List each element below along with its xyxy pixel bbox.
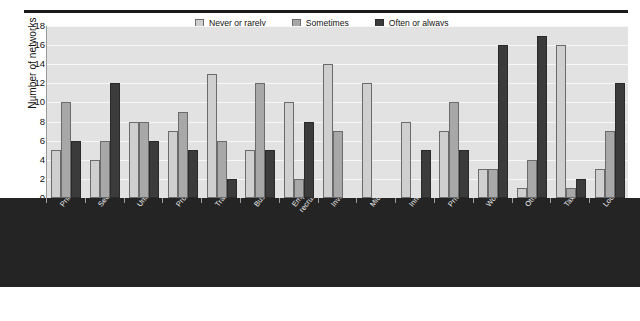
x-axis-tick-label: Local / regional government <box>601 198 628 209</box>
bar-1 <box>100 141 110 198</box>
bar-1 <box>488 169 498 198</box>
bar-1 <box>217 141 227 198</box>
bar-1 <box>294 179 304 198</box>
bar-1 <box>333 131 343 198</box>
x-axis-tick <box>124 198 125 203</box>
top-rule <box>24 10 628 13</box>
bar-group <box>551 26 590 198</box>
x-axis-tick <box>162 198 163 203</box>
bar-1 <box>566 188 576 198</box>
bar-group <box>280 26 319 198</box>
x-axis-tick-label: Investment promotion agencies <box>329 198 401 209</box>
chart-figure: Number of networks Never or rarely Somet… <box>0 0 640 321</box>
bar-1 <box>527 160 537 198</box>
bar-2 <box>421 150 431 198</box>
bar-0 <box>401 122 411 198</box>
bar-0 <box>207 74 217 198</box>
x-axis-tick <box>85 198 86 203</box>
x-label-band-left <box>0 198 46 287</box>
x-axis-tick-label: Tax office <box>562 198 589 209</box>
bar-group <box>163 26 202 198</box>
bar-0 <box>439 131 449 198</box>
bar-1 <box>139 122 149 198</box>
y-axis-tick-label: 8 <box>5 116 45 127</box>
bar-0 <box>90 160 100 198</box>
bar-0 <box>556 45 566 198</box>
x-axis-tick-label: Primary schools <box>58 198 98 209</box>
bar-group <box>241 26 280 198</box>
y-axis-tick-label: 2 <box>5 173 45 184</box>
bar-2 <box>576 179 586 198</box>
bar-group <box>474 26 513 198</box>
y-axis-tick-label: 14 <box>5 58 45 69</box>
x-axis-tick <box>279 198 280 203</box>
bar-2 <box>227 179 237 198</box>
bar-group <box>513 26 552 198</box>
x-axis-category-label: Tax office <box>562 198 589 209</box>
bar-0 <box>245 150 255 198</box>
x-axis-label-band: Primary schoolsSecondary schoolsUniversi… <box>46 198 628 287</box>
x-axis-category-label: Private co. <box>446 198 475 209</box>
y-axis-tick-label: 4 <box>5 154 45 165</box>
plot-area: 181614121086420 <box>46 26 628 198</box>
x-axis-tick <box>318 198 319 203</box>
bar-group <box>435 26 474 198</box>
bar-0 <box>168 131 178 198</box>
bar-0 <box>323 64 333 198</box>
x-label-band-right <box>628 198 640 287</box>
x-axis-tick <box>395 198 396 203</box>
x-axis-tick <box>240 198 241 203</box>
bar-0 <box>284 102 294 198</box>
y-axis-tick-label: 10 <box>5 96 45 107</box>
bar-group <box>47 26 86 198</box>
bar-group <box>357 26 396 198</box>
x-axis-tick <box>550 198 551 203</box>
x-axis-tick <box>434 198 435 203</box>
x-axis-tick <box>356 198 357 203</box>
bar-group <box>202 26 241 198</box>
bar-2 <box>71 141 81 198</box>
y-axis-tick-label: 12 <box>5 77 45 88</box>
plot-area-wrapper: 181614121086420 Primary schoolsSecondary… <box>46 26 628 287</box>
bar-groups <box>47 26 629 198</box>
bar-group <box>396 26 435 198</box>
x-axis-category-label: Local / regional government <box>601 198 628 209</box>
bar-2 <box>459 150 469 198</box>
x-axis-category-label: Primary schools <box>58 198 98 209</box>
bar-0 <box>51 150 61 198</box>
bar-2 <box>149 141 159 198</box>
x-axis-tick <box>589 198 590 203</box>
bar-0 <box>595 169 605 198</box>
bar-1 <box>449 102 459 198</box>
bar-0 <box>517 188 527 198</box>
x-axis-tick <box>473 198 474 203</box>
bar-2 <box>537 36 547 198</box>
bar-0 <box>129 122 139 198</box>
y-axis-tick-label: 6 <box>5 135 45 146</box>
y-axis-tick-label: 16 <box>5 39 45 50</box>
bar-2 <box>615 83 625 198</box>
y-axis-tick-label: 18 <box>5 20 45 31</box>
x-axis-category-label: Other social org. <box>523 198 565 209</box>
bar-1 <box>61 102 71 198</box>
bar-2 <box>498 45 508 198</box>
bar-1 <box>178 112 188 198</box>
bar-group <box>590 26 629 198</box>
bar-2 <box>304 122 314 198</box>
x-axis-tick <box>201 198 202 203</box>
bar-group <box>319 26 358 198</box>
bar-2 <box>265 150 275 198</box>
bar-1 <box>255 83 265 198</box>
bar-1 <box>605 131 615 198</box>
x-axis-tick <box>46 198 47 203</box>
x-axis-tick-label: Private co. <box>446 198 475 209</box>
x-axis-tick-label: Other social org. <box>523 198 565 209</box>
x-axis-tick <box>512 198 513 203</box>
bar-2 <box>110 83 120 198</box>
bar-group <box>86 26 125 198</box>
x-axis-category-label: Investment promotion agencies <box>329 198 401 209</box>
bar-0 <box>362 83 372 198</box>
bar-2 <box>188 150 198 198</box>
bar-group <box>125 26 164 198</box>
bar-0 <box>478 169 488 198</box>
